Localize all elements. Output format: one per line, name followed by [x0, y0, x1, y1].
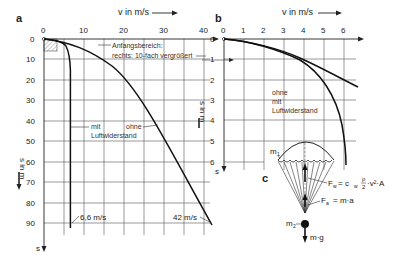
x-tick: 10	[79, 26, 88, 35]
label-without-b: ohne	[272, 89, 288, 96]
y-tick: 80	[26, 199, 35, 208]
label-with: mit	[91, 123, 100, 130]
drag-formula: = c	[338, 179, 349, 188]
panel-b-x-axis-title: v in m/s	[282, 7, 314, 17]
x-tick: 4	[301, 26, 306, 35]
x-tick: 0	[221, 26, 226, 35]
y-tick: 10	[26, 55, 35, 64]
y-tick: 50	[26, 137, 35, 146]
x-tick: 2	[261, 26, 266, 35]
panel-b-y-axis-end: s	[215, 167, 219, 176]
end-label-with: 6,6 m/s	[80, 213, 106, 222]
y-tick: 2	[210, 76, 215, 85]
arrow-right-icon	[172, 11, 178, 16]
panel-a-y-axis-end: s	[36, 244, 40, 253]
end-label-without: 42 m/s	[173, 213, 197, 222]
load-mass	[301, 220, 309, 228]
arrow-right-icon	[229, 58, 234, 62]
arrow-up-icon	[303, 163, 308, 170]
arrow-down-icon	[303, 236, 308, 243]
accel-formula: = m·a	[333, 196, 354, 205]
accel-force-sub: a	[326, 200, 329, 206]
y-tick: 30	[26, 96, 35, 105]
y-tick: 90	[26, 219, 35, 228]
x-tick: 0	[41, 26, 46, 35]
x-tick: 40	[199, 26, 208, 35]
mass-load-sub: 2	[293, 223, 296, 229]
x-tick: 3	[281, 26, 286, 35]
annotation-line2: rechts: 10-fach vergrößert	[112, 52, 193, 60]
drag-formula-sub: w	[354, 183, 358, 189]
arrow-down-icon	[42, 246, 47, 252]
label-without: ohne	[126, 123, 142, 130]
y-tick: 1	[210, 55, 215, 64]
panel-a-label: a	[16, 12, 23, 24]
label-drag: Luftwiderstand	[91, 132, 137, 139]
arrow-right-icon	[336, 11, 342, 16]
y-tick: 6	[210, 158, 215, 167]
drag-formula-rho: ρ	[362, 176, 366, 182]
y-tick: 5	[210, 137, 215, 146]
parachute-canopy	[278, 142, 334, 160]
arrow-up-icon	[303, 193, 308, 200]
arrow-down-icon	[222, 166, 227, 172]
y-tick: 20	[26, 76, 35, 85]
y-tick: 4	[210, 116, 215, 125]
y-tick: 0	[30, 35, 35, 44]
curve-with-drag	[44, 39, 70, 228]
panel-b-label: b	[215, 12, 222, 24]
panel-a: a v in m/s s	[16, 7, 219, 253]
curve-with-drag-b	[224, 39, 346, 165]
leader-without	[143, 125, 158, 127]
panel-a-x-axis-title: v in m/s	[118, 7, 150, 17]
panel-c: c m 1 m 2	[262, 142, 385, 243]
y-tick: 0	[210, 35, 215, 44]
annotation-line1: Anfangsbereich:	[112, 42, 163, 50]
x-tick: 1	[241, 26, 246, 35]
arrow-down-icon	[17, 184, 22, 190]
drag-force-sub: w	[333, 183, 337, 189]
label-with-b: mit	[272, 98, 281, 105]
drag-formula-two: 2	[362, 184, 366, 190]
arrow-right-icon	[358, 37, 364, 42]
mass-canopy-label: m	[270, 147, 277, 156]
y-tick: 3	[210, 96, 215, 105]
drag-formula-rest: ·v²·A	[367, 179, 385, 188]
panel-c-label: c	[262, 172, 268, 184]
end-leader-with	[72, 216, 79, 223]
x-tick: 20	[119, 26, 128, 35]
label-drag-b: Luftwiderstand	[272, 107, 318, 114]
x-tick: 30	[159, 26, 168, 35]
y-tick: 70	[26, 178, 35, 187]
figure-canvas: a v in m/s s	[0, 0, 399, 260]
weight-force-label: m·g	[310, 233, 324, 242]
y-tick: 40	[26, 117, 35, 126]
panel-b: b v in m/s s 0 1 2 3 4 5 6 0	[198, 7, 364, 176]
x-tick: 5	[321, 26, 326, 35]
mass-load-label: m	[286, 219, 293, 228]
x-tick: 6	[341, 26, 346, 35]
